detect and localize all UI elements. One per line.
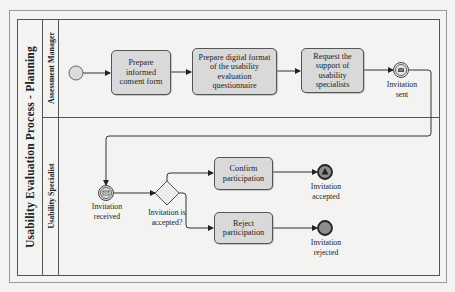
task-label-line: participation xyxy=(223,174,264,184)
task-label-line: Confirm xyxy=(223,164,264,174)
task-label-line: participation xyxy=(223,228,264,238)
task-label-line: informed xyxy=(120,68,163,78)
end-signal-event-icon xyxy=(318,165,332,179)
task-prepare-digital-questionnaire[interactable]: Prepare digital format of the usability … xyxy=(192,48,277,95)
task-label-line: questionnaire xyxy=(199,81,271,91)
end-event-icon xyxy=(318,221,332,235)
task-label-line: usability xyxy=(313,71,351,81)
task-label-line: specialists xyxy=(313,80,351,90)
task-label-line: support of xyxy=(313,61,351,71)
event-label-invitation-accepted: Invitation accepted xyxy=(311,182,341,201)
task-reject-participation[interactable]: Reject participation xyxy=(214,212,273,244)
gateway-label: Invitation is accepted? xyxy=(148,208,185,227)
task-prepare-consent-form[interactable]: Prepare informed consent form xyxy=(111,50,171,95)
task-label-line: of the usability xyxy=(199,62,271,72)
flow-gateway-to-confirm xyxy=(167,173,213,182)
event-label-invitation-rejected: Invitation rejected xyxy=(311,238,341,257)
task-request-specialist-support[interactable]: Request the support of usability special… xyxy=(301,48,364,93)
exclusive-gateway-icon xyxy=(155,181,179,205)
task-label-line: Request the xyxy=(313,52,351,62)
task-label-line: Prepare digital format xyxy=(199,53,271,63)
task-label-line: evaluation xyxy=(199,72,271,82)
start-event-icon xyxy=(69,66,83,80)
message-throw-event-icon xyxy=(394,63,409,78)
task-confirm-participation[interactable]: Confirm participation xyxy=(214,157,273,190)
message-catch-event-icon xyxy=(99,186,114,201)
task-label-line: Reject xyxy=(223,219,264,229)
event-label-invitation-received: Invitation received xyxy=(92,202,122,221)
task-label-line: Prepare xyxy=(120,58,163,68)
task-label-line: consent form xyxy=(120,77,163,87)
sequence-flows xyxy=(0,0,455,292)
event-label-invitation-sent: Invitation sent xyxy=(387,80,417,99)
